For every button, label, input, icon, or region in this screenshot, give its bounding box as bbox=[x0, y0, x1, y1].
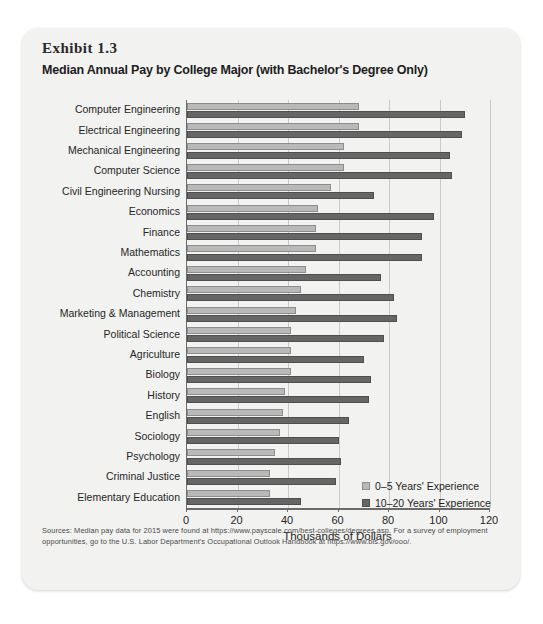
plot-area bbox=[186, 100, 489, 508]
bar-0-9 bbox=[187, 286, 301, 293]
legend-label-1: 10–20 Years' Experience bbox=[375, 497, 491, 509]
gridline bbox=[238, 100, 239, 508]
category-label: Accounting bbox=[128, 267, 180, 278]
legend-swatch-icon-1 bbox=[362, 499, 370, 507]
category-label: Mechanical Engineering bbox=[68, 145, 180, 156]
bar-1-3 bbox=[187, 172, 452, 179]
bar-0-15 bbox=[187, 409, 283, 416]
category-label: Biology bbox=[146, 369, 180, 380]
gridline bbox=[339, 100, 340, 508]
bar-0-8 bbox=[187, 266, 306, 273]
bar-1-14 bbox=[187, 396, 369, 403]
legend-swatch-icon-0 bbox=[362, 482, 370, 490]
bar-1-19 bbox=[187, 498, 301, 505]
bar-0-7 bbox=[187, 245, 316, 252]
bar-1-10 bbox=[187, 315, 397, 322]
bar-1-2 bbox=[187, 152, 450, 159]
category-label: Elementary Education bbox=[77, 492, 180, 503]
bar-0-17 bbox=[187, 449, 275, 456]
x-tick bbox=[338, 508, 339, 512]
bar-0-0 bbox=[187, 103, 359, 110]
category-axis-labels: Computer EngineeringElectrical Engineeri… bbox=[22, 100, 180, 508]
gridline bbox=[288, 100, 289, 508]
bar-0-16 bbox=[187, 429, 280, 436]
bar-0-2 bbox=[187, 143, 344, 150]
bar-1-11 bbox=[187, 335, 384, 342]
bar-1-5 bbox=[187, 213, 434, 220]
bar-0-12 bbox=[187, 347, 291, 354]
category-label: Electrical Engineering bbox=[78, 125, 180, 136]
bar-1-0 bbox=[187, 111, 465, 118]
bar-0-3 bbox=[187, 164, 344, 171]
bar-0-18 bbox=[187, 470, 270, 477]
x-tick bbox=[237, 508, 238, 512]
bar-1-7 bbox=[187, 254, 422, 261]
bar-1-13 bbox=[187, 376, 371, 383]
bar-0-5 bbox=[187, 205, 318, 212]
gridline bbox=[440, 100, 441, 508]
bar-0-6 bbox=[187, 225, 316, 232]
legend-label-0: 0–5 Years' Experience bbox=[375, 480, 479, 492]
category-label: Marketing & Management bbox=[60, 308, 180, 319]
bar-1-17 bbox=[187, 458, 341, 465]
x-tick bbox=[388, 508, 389, 512]
x-tick bbox=[439, 508, 440, 512]
bar-0-11 bbox=[187, 327, 291, 334]
bar-0-1 bbox=[187, 123, 359, 130]
bar-1-1 bbox=[187, 131, 462, 138]
bar-1-6 bbox=[187, 233, 422, 240]
bar-0-4 bbox=[187, 184, 331, 191]
category-label: Economics bbox=[129, 206, 180, 217]
bar-1-9 bbox=[187, 294, 394, 301]
x-tick bbox=[489, 508, 490, 512]
bar-1-15 bbox=[187, 417, 349, 424]
exhibit-title: Median Annual Pay by College Major (with… bbox=[42, 63, 428, 77]
bar-chart: Computer EngineeringElectrical Engineeri… bbox=[22, 100, 520, 540]
category-label: Civil Engineering Nursing bbox=[62, 186, 180, 197]
category-label: History bbox=[147, 390, 180, 401]
bar-0-10 bbox=[187, 307, 296, 314]
exhibit-card: Exhibit 1.3 Median Annual Pay by College… bbox=[22, 28, 520, 590]
category-label: Agriculture bbox=[130, 349, 180, 360]
x-tick bbox=[186, 508, 187, 512]
category-label: Political Science bbox=[104, 329, 180, 340]
chart-legend: 0–5 Years' Experience 10–20 Years' Exper… bbox=[362, 480, 491, 514]
category-label: Psychology bbox=[126, 451, 180, 462]
legend-item-1: 10–20 Years' Experience bbox=[362, 497, 491, 509]
bar-0-13 bbox=[187, 368, 291, 375]
bar-1-18 bbox=[187, 478, 336, 485]
category-label: Sociology bbox=[134, 431, 180, 442]
gridline bbox=[490, 100, 491, 508]
bar-1-8 bbox=[187, 274, 381, 281]
category-label: Chemistry bbox=[133, 288, 180, 299]
category-label: Computer Engineering bbox=[75, 104, 180, 115]
legend-item-0: 0–5 Years' Experience bbox=[362, 480, 491, 492]
bar-1-16 bbox=[187, 437, 339, 444]
category-label: Mathematics bbox=[120, 247, 180, 258]
category-label: English bbox=[146, 410, 180, 421]
x-tick bbox=[287, 508, 288, 512]
bar-1-4 bbox=[187, 192, 374, 199]
gridline bbox=[389, 100, 390, 508]
category-label: Criminal Justice bbox=[106, 471, 180, 482]
bar-0-19 bbox=[187, 490, 270, 497]
bar-0-14 bbox=[187, 388, 285, 395]
exhibit-number: Exhibit 1.3 bbox=[42, 40, 118, 57]
source-note: Sources: Median pay data for 2015 were f… bbox=[42, 525, 502, 548]
category-label: Computer Science bbox=[94, 165, 180, 176]
bar-1-12 bbox=[187, 356, 364, 363]
category-label: Finance bbox=[143, 227, 180, 238]
